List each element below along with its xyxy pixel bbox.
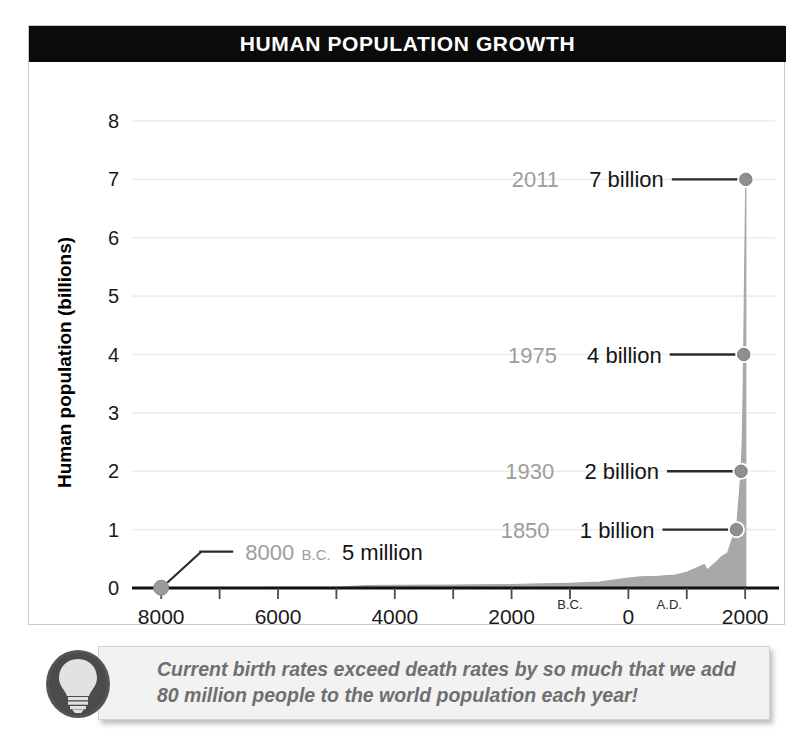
y-tick-label: 4 — [108, 344, 119, 366]
y-tick-label: 0 — [108, 577, 119, 599]
annotation-value: 7 billion — [589, 167, 664, 192]
chart-annotation: 7 billion2011 — [512, 167, 755, 192]
caption-text: Current birth rates exceed death rates b… — [157, 657, 755, 708]
annotation-year: 1930 — [505, 459, 554, 484]
y-tick-label: 5 — [108, 285, 119, 307]
data-annotations: 8000B.C.5 million1 billion18502 billion1… — [154, 167, 755, 595]
figure-card: HUMAN POPULATION GROWTH 012345678 800060… — [28, 25, 785, 625]
annotation-value: 1 billion — [580, 518, 655, 543]
chart-annotation: 1 billion1850 — [501, 518, 745, 543]
x-tick-label: 6000 — [255, 605, 302, 625]
chart-title-bar: HUMAN POPULATION GROWTH — [29, 26, 786, 62]
x-tick-label: 8000 — [138, 605, 185, 625]
chart-annotation: 2 billion1930 — [505, 459, 749, 484]
era-labels: B.C.A.D. — [557, 597, 682, 612]
annotation-year: 1850 — [501, 518, 550, 543]
y-tick-label: 1 — [108, 519, 119, 541]
x-tick-label: 2000 — [488, 605, 535, 625]
annotation-year: 1975 — [508, 343, 557, 368]
annotation-year: 2011 — [512, 167, 559, 192]
y-tick-label: 6 — [108, 227, 119, 249]
era-label: B.C. — [557, 597, 582, 612]
x-tick-label: 2000 — [722, 605, 769, 625]
x-tick-label: 4000 — [371, 605, 418, 625]
y-tick-label: 2 — [108, 460, 119, 482]
y-tick-label: 7 — [108, 168, 119, 190]
annotation-year: 8000 — [245, 540, 294, 565]
chart-title: HUMAN POPULATION GROWTH — [240, 32, 575, 56]
lightbulb-icon — [44, 648, 112, 720]
y-axis-ticks: 012345678 — [108, 110, 119, 599]
gridlines — [132, 121, 775, 530]
chart-annotation: 4 billion1975 — [508, 343, 752, 368]
y-tick-label: 8 — [108, 110, 119, 132]
annotation-value: 2 billion — [584, 459, 659, 484]
annotation-era: B.C. — [302, 546, 331, 563]
plot-area: 012345678 800060004000200002000 B.C.A.D.… — [29, 62, 786, 625]
caption-callout: Current birth rates exceed death rates b… — [98, 646, 770, 720]
era-label: A.D. — [657, 597, 682, 612]
y-axis-title: Human population (billions) — [54, 237, 75, 488]
annotation-value: 4 billion — [587, 343, 662, 368]
population-growth-chart: 012345678 800060004000200002000 B.C.A.D.… — [29, 62, 786, 625]
annotation-value: 5 million — [342, 540, 423, 565]
population-curve — [161, 179, 746, 588]
x-tick-label: 0 — [623, 605, 635, 625]
y-tick-label: 3 — [108, 402, 119, 424]
